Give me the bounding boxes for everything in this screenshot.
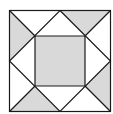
top-left-triangle bbox=[10, 11, 36, 62]
bottom-left-triangle bbox=[10, 86, 61, 112]
quilt-block-diagram bbox=[0, 0, 113, 114]
center-square bbox=[35, 36, 85, 86]
bottom-right-triangle bbox=[85, 61, 111, 112]
top-right-triangle bbox=[60, 11, 111, 37]
